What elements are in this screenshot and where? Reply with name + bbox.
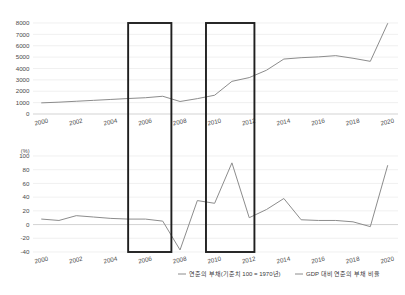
y-axis-tick-label: 4000 xyxy=(16,65,30,72)
y-axis-tick-label: 0 xyxy=(26,110,30,117)
chart-figure: 0100020003000400050006000700080002000200… xyxy=(0,0,405,295)
y-axis-tick-label: 5000 xyxy=(16,53,30,60)
legend-item-label: GDP 대비 연준의 부채 비율 xyxy=(306,270,380,278)
y-axis-tick-label: 20 xyxy=(23,207,30,214)
y-axis-tick-label: -40 xyxy=(21,248,31,255)
y-axis-tick-label: 3000 xyxy=(16,76,30,83)
y-axis-tick-label: 40 xyxy=(23,193,30,200)
y-axis-tick-label: 7000 xyxy=(16,31,30,38)
y-axis-tick-label: 1000 xyxy=(16,99,30,106)
y-axis-tick-label: -20 xyxy=(21,234,31,241)
y-axis-tick-label: 0 xyxy=(26,221,30,228)
y-axis-tick-label: 60 xyxy=(23,180,30,187)
y-axis-tick-label: 6000 xyxy=(16,42,30,49)
chart-legend: 연준의 부채(기준치 100 = 1970년)GDP 대비 연준의 부채 비율 xyxy=(178,270,380,278)
y-axis-tick-label: 80 xyxy=(23,166,30,173)
y-axis-tick-label: 8000 xyxy=(16,19,30,26)
y-axis-unit-label: (%) xyxy=(21,148,30,154)
legend-item-label: 연준의 부채(기준치 100 = 1970년) xyxy=(189,270,281,278)
chart-background xyxy=(0,0,405,295)
y-axis-tick-label: 2000 xyxy=(16,87,30,94)
dual-line-chart-canvas: 0100020003000400050006000700080002000200… xyxy=(0,0,405,295)
